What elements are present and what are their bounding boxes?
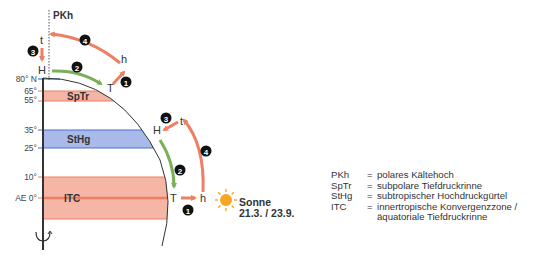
svg-text:h: h (121, 53, 127, 65)
svg-text:T: T (107, 82, 114, 94)
svg-text:4: 4 (204, 148, 209, 157)
zone-label-sptr: SpTr (67, 91, 89, 102)
svg-text:4: 4 (83, 37, 88, 46)
sun-icon (215, 189, 237, 211)
svg-text:H: H (153, 124, 161, 136)
sun-dates: 21.3. / 23.9. (239, 208, 294, 219)
lat-label: 55° (24, 95, 37, 105)
legend-item: PKh=polares Kältehoch (331, 170, 517, 181)
legend: PKh=polares Kältehoch SpTr=subpolare Tie… (331, 170, 517, 223)
lat-label: 10° (24, 172, 37, 182)
lat-label: AE 0° (15, 193, 37, 203)
svg-text:t: t (180, 115, 183, 127)
svg-text:H: H (38, 64, 46, 76)
lat-label: 25° (24, 143, 37, 153)
sun-label: Sonne 21.3. / 23.9. (239, 197, 294, 219)
earth-outline (43, 78, 168, 246)
svg-text:t: t (40, 34, 43, 46)
latitude-labels: 80° N 65° 55° 35° 25° 10° AE 0° (15, 74, 37, 203)
zone-label-sthg: StHg (67, 134, 90, 145)
zone-label-itc: ITC (64, 193, 80, 204)
legend-item-continuation: äquatoriale Tiefdruckrinne (331, 212, 517, 223)
lat-label: 35° (24, 125, 37, 135)
svg-text:h: h (200, 192, 206, 204)
lat-label: 80° N (16, 74, 37, 84)
arrow-4-hadley (184, 120, 203, 192)
svg-text:2: 2 (178, 167, 183, 176)
svg-text:3: 3 (31, 48, 36, 57)
svg-text:2: 2 (75, 64, 80, 73)
pkh-label: PKh (53, 10, 73, 21)
svg-text:3: 3 (164, 115, 169, 124)
pressure-zones (38, 91, 183, 219)
svg-text:T: T (170, 192, 177, 204)
svg-text:1: 1 (124, 79, 129, 88)
svg-text:1: 1 (186, 207, 191, 216)
